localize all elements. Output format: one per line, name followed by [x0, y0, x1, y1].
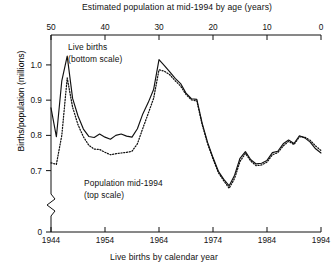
y-tick-label: 1.0: [30, 60, 42, 70]
y-tick-label: 0: [37, 227, 42, 237]
data-series-group: [51, 56, 321, 188]
bottom-tick-label: 1984: [258, 235, 277, 245]
bottom-tick-label: 1964: [150, 235, 169, 245]
y-tick-label: 0.7: [30, 166, 42, 176]
top-tick-label: 0: [319, 22, 324, 32]
top-tick-label: 30: [154, 22, 164, 32]
y-axis-break-icon: [47, 194, 55, 216]
top-axis-ticks: [51, 35, 321, 40]
y-tick-label: 0.8: [30, 130, 42, 140]
top-tick-label: 20: [208, 22, 218, 32]
tick-label-group: 5040302010019441954196419741984199400.70…: [30, 22, 330, 245]
top-tick-label: 40: [100, 22, 110, 32]
series-line-live-births: [51, 56, 321, 186]
bottom-axis-ticks: [51, 227, 321, 232]
top-tick-label: 10: [262, 22, 272, 32]
bottom-tick-label: 1974: [204, 235, 223, 245]
y-tick-label: 0.9: [30, 95, 42, 105]
bottom-tick-label: 1954: [96, 235, 115, 245]
top-tick-label: 50: [46, 22, 56, 32]
bottom-tick-label: 1944: [42, 235, 61, 245]
plot-area: 5040302010019441954196419741984199400.70…: [0, 0, 335, 268]
series-line-population: [51, 70, 321, 188]
figure-panel: Estimated population at mid-1994 by age …: [0, 0, 335, 268]
bottom-tick-label: 1994: [312, 235, 331, 245]
